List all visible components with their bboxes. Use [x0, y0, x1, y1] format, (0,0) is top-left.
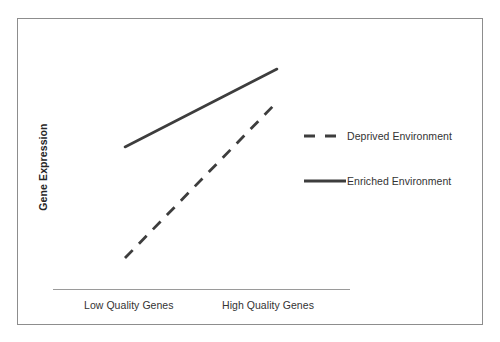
chart-legend: Deprived Environment Enriched Environmen…	[303, 126, 473, 191]
chart-figure: Gene Expression Low Quality Genes High Q…	[0, 0, 500, 342]
legend-label-enriched-environment: Enriched Environment	[347, 175, 451, 187]
legend-item-enriched-environment: Enriched Environment	[303, 171, 473, 191]
series-line-deprived-environment	[125, 101, 278, 258]
x-tick-label-high-quality-genes: High Quality Genes	[222, 299, 314, 311]
legend-item-deprived-environment: Deprived Environment	[303, 126, 473, 146]
x-tick-label-low-quality-genes: Low Quality Genes	[84, 299, 174, 311]
y-axis-title-text: Gene Expression	[37, 123, 49, 210]
legend-swatch-solid-line-icon	[303, 175, 347, 187]
legend-label-deprived-environment: Deprived Environment	[347, 130, 452, 142]
legend-swatch-dashed-line-icon	[303, 130, 347, 142]
y-axis-title: Gene Expression	[35, 112, 51, 222]
series-line-enriched-environment	[125, 69, 277, 147]
